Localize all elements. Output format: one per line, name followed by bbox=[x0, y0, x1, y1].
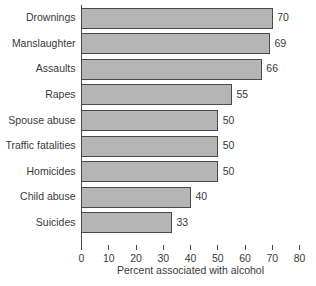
bar bbox=[82, 213, 172, 233]
category-label: Drownings bbox=[26, 11, 76, 23]
bar bbox=[82, 136, 218, 156]
x-axis-tick-label: 40 bbox=[185, 252, 197, 264]
x-axis-tick-label: 80 bbox=[294, 252, 306, 264]
x-axis-tick-label: 20 bbox=[130, 252, 142, 264]
bar-value-label: 69 bbox=[275, 37, 287, 49]
bar-value-label: 50 bbox=[223, 139, 235, 151]
bar-value-label: 50 bbox=[223, 114, 235, 126]
bar bbox=[82, 85, 232, 105]
category-label: Homicides bbox=[26, 165, 75, 177]
x-axis-tick-label: 60 bbox=[239, 252, 251, 264]
bar bbox=[82, 59, 262, 79]
bar-value-label: 33 bbox=[176, 216, 188, 228]
category-label: Rapes bbox=[45, 88, 75, 100]
x-axis-tick-label: 70 bbox=[266, 252, 278, 264]
chart-canvas: DrowningsManslaughterAssaultsRapesSpouse… bbox=[0, 0, 316, 286]
category-label: Suicides bbox=[36, 216, 76, 228]
category-label: Assaults bbox=[36, 62, 76, 74]
x-axis-title: Percent associated with alcohol bbox=[117, 264, 264, 276]
bar-value-label: 66 bbox=[266, 62, 278, 74]
bar-chart: DrowningsManslaughterAssaultsRapesSpouse… bbox=[0, 0, 316, 286]
bar-value-label: 40 bbox=[196, 190, 208, 202]
category-label: Manslaughter bbox=[12, 37, 76, 49]
bar bbox=[82, 34, 270, 54]
category-label: Traffic fatalities bbox=[5, 139, 75, 151]
bar bbox=[82, 162, 218, 182]
bar-value-label: 55 bbox=[236, 88, 248, 100]
bar bbox=[82, 8, 273, 28]
category-label: Child abuse bbox=[20, 190, 76, 202]
x-axis-tick-label: 50 bbox=[212, 252, 224, 264]
category-label: Spouse abuse bbox=[8, 114, 75, 126]
bar-value-label: 70 bbox=[277, 11, 289, 23]
x-axis-tick-label: 30 bbox=[157, 252, 169, 264]
bar-value-label: 50 bbox=[223, 165, 235, 177]
x-axis-tick-label: 10 bbox=[103, 252, 115, 264]
bar bbox=[82, 187, 191, 207]
bar bbox=[82, 110, 218, 130]
x-axis-tick-label: 0 bbox=[79, 252, 85, 264]
